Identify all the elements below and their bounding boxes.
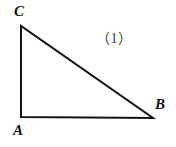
triangle-outline — [21, 26, 153, 118]
vertex-label-b: B — [155, 97, 165, 112]
right-triangle-drawing — [0, 0, 176, 147]
figure-caption: （1） — [96, 31, 133, 47]
vertex-label-a: A — [13, 123, 23, 138]
geometry-figure-panel: C A B （1） — [0, 0, 176, 147]
vertex-label-c: C — [14, 4, 24, 19]
